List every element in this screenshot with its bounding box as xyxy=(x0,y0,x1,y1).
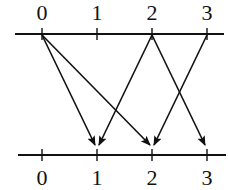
arrow-2-to-3 xyxy=(152,35,205,145)
mapping-diagram: 0 1 2 3 0 1 2 3 xyxy=(0,0,228,190)
arrow-3-to-2 xyxy=(154,35,207,145)
top-label-3: 3 xyxy=(202,0,213,25)
bottom-number-line: 0 1 2 3 xyxy=(18,149,226,190)
top-label-2: 2 xyxy=(147,0,158,25)
mapping-arrows xyxy=(42,35,207,145)
bottom-label-0: 0 xyxy=(37,165,48,190)
bottom-label-1: 1 xyxy=(92,165,103,190)
top-label-0: 0 xyxy=(37,0,48,25)
top-label-1: 1 xyxy=(92,0,103,25)
top-number-line: 0 1 2 3 xyxy=(15,0,224,40)
arrow-0-to-2 xyxy=(42,35,150,145)
arrow-0-to-1 xyxy=(42,35,95,145)
bottom-label-2: 2 xyxy=(147,165,158,190)
bottom-label-3: 3 xyxy=(202,165,213,190)
arrow-2-to-1 xyxy=(99,35,152,145)
